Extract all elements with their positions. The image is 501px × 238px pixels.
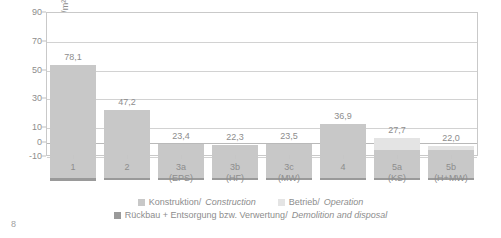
x-tick-mark: [127, 155, 128, 159]
x-axis-label-sub: (HF): [205, 173, 265, 184]
legend-item-demolition: Rückbau + Entsorgung bzw. Verwertung/Dem…: [114, 209, 387, 222]
y-tick-label-70: 70: [32, 36, 42, 46]
legend-label-construction-de: Konstruktion/: [149, 196, 202, 209]
legend-label-demolition-de: Rückbau + Entsorgung bzw. Verwertung/: [125, 209, 288, 222]
x-axis-label-sub: (MW): [259, 173, 319, 184]
y-tick-label-30: 30: [32, 93, 42, 103]
y-tick-label--10: -10: [29, 151, 42, 161]
x-axis-label-2: 2: [97, 162, 157, 173]
x-axis-label-sub: (H+MW): [421, 173, 481, 184]
x-axis-label-3c: 3c(MW): [259, 162, 319, 184]
x-axis-label-1: 1: [43, 162, 103, 173]
legend-label-operation-en: Operation: [324, 196, 364, 209]
chart-legend: Konstruktion/Construction Betrieb/Operat…: [0, 196, 501, 222]
page-number: 8: [11, 219, 16, 229]
legend-item-construction: Konstruktion/Construction: [138, 196, 256, 209]
x-tick-mark: [73, 155, 74, 159]
x-axis-label-main: 3c: [284, 162, 294, 172]
bar-value-label: 27,7: [374, 125, 420, 135]
legend-row-2: Rückbau + Entsorgung bzw. Verwertung/Dem…: [0, 209, 501, 222]
legend-swatch-demolition-icon: [114, 212, 121, 219]
x-axis-label-sub: (EPS): [151, 173, 211, 184]
x-axis-labels: 123a(EPS)3b(HF)3c(MW)45a(KS)5b(H+MW): [46, 160, 478, 196]
legend-row-1: Konstruktion/Construction Betrieb/Operat…: [0, 196, 501, 209]
x-tick-mark: [235, 155, 236, 159]
bar-segment-operation[interactable]: [374, 138, 420, 151]
legend-label-operation-de: Betrieb/: [289, 196, 320, 209]
legend-swatch-construction-icon: [138, 199, 145, 206]
bar-value-label: 22,3: [212, 132, 258, 142]
x-axis-label-3a: 3a(EPS): [151, 162, 211, 184]
y-tick-label-10: 10: [32, 122, 42, 132]
x-axis-label-5b: 5b(H+MW): [421, 162, 481, 184]
x-tick-mark: [343, 155, 344, 159]
x-axis-label-main: 5a: [392, 162, 402, 172]
x-tick-mark: [289, 155, 290, 159]
x-axis-label-main: 4: [340, 162, 345, 172]
y-tick-label-90: 90: [32, 7, 42, 17]
x-axis-label-main: 5b: [446, 162, 456, 172]
legend-item-operation: Betrieb/Operation: [278, 196, 364, 209]
x-axis-label-main: 3a: [176, 162, 186, 172]
bar-value-label: 23,4: [158, 131, 204, 141]
x-axis-label-main: 1: [70, 162, 75, 172]
x-axis-label-main: 2: [124, 162, 129, 172]
x-axis-label-main: 3b: [230, 162, 240, 172]
bar-value-label: 22,0: [428, 133, 474, 143]
bar-value-label: 23,5: [266, 131, 312, 141]
legend-label-demolition-en: Demolition and disposal: [292, 209, 388, 222]
y-tick-label-50: 50: [32, 65, 42, 75]
x-axis-label-sub: (KS): [367, 173, 427, 184]
x-tick-mark: [451, 155, 452, 159]
bar-value-label: 47,2: [104, 97, 150, 107]
legend-label-construction-en: Construction: [205, 196, 256, 209]
x-axis-label-3b: 3b(HF): [205, 162, 265, 184]
x-axis-label-5a: 5a(KS): [367, 162, 427, 184]
bar-value-label: 36,9: [320, 111, 366, 121]
chart-figure: GWP [kg CO2-Äq./m²a] 90705030100-10 78,1…: [0, 0, 501, 238]
x-axis-label-4: 4: [313, 162, 373, 173]
x-tick-mark: [397, 155, 398, 159]
legend-swatch-operation-icon: [278, 199, 285, 206]
bar-value-label: 78,1: [50, 52, 96, 62]
x-tick-mark: [181, 155, 182, 159]
